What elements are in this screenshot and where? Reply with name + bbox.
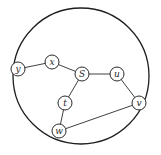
node-label: v [136,98,141,108]
node-x: x [45,55,59,69]
node-t: t [58,96,72,110]
graph-diagram: yxSuvtw [0,0,161,155]
nodes-group: yxSuvtw [11,55,146,138]
node-label: S [79,69,85,79]
node-u: u [110,67,124,81]
node-label: u [114,69,120,79]
node-w: w [52,124,66,138]
node-S: S [75,67,89,81]
node-y: y [11,62,25,76]
node-label: x [49,57,54,67]
node-label: w [55,126,63,136]
graph-canvas: yxSuvtw [0,0,161,155]
node-label: t [63,98,67,108]
node-v: v [132,96,146,110]
node-label: y [14,64,21,74]
